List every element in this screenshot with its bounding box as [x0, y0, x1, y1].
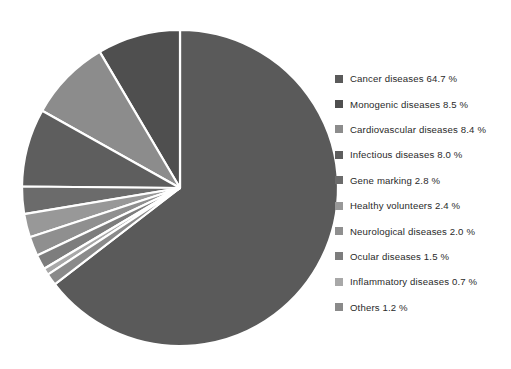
- legend-color-swatch-icon: [335, 278, 343, 286]
- legend-item[interactable]: Cancer diseases 64.7 %: [335, 66, 511, 91]
- legend-item[interactable]: Healthy volunteers 2.4 %: [335, 193, 511, 218]
- legend-item-label: Neurological diseases 2.0 %: [350, 226, 475, 237]
- legend-color-swatch-icon: [335, 303, 343, 311]
- legend-item[interactable]: Infectious diseases 8.0 %: [335, 142, 511, 167]
- legend-color-swatch-icon: [335, 151, 343, 159]
- legend-color-swatch-icon: [335, 100, 343, 108]
- pie-chart-figure: Cancer diseases 64.7 %Monogenic diseases…: [0, 0, 511, 369]
- legend-color-swatch-icon: [335, 176, 343, 184]
- legend-item-label: Cardiovascular diseases 8.4 %: [350, 124, 486, 135]
- chart-legend: Cancer diseases 64.7 %Monogenic diseases…: [335, 66, 511, 320]
- legend-item-label: Inflammatory diseases 0.7 %: [350, 276, 477, 287]
- legend-item-label: Cancer diseases 64.7 %: [350, 73, 457, 84]
- legend-item[interactable]: Inflammatory diseases 0.7 %: [335, 269, 511, 294]
- legend-item-label: Infectious diseases 8.0 %: [350, 149, 463, 160]
- legend-item[interactable]: Neurological diseases 2.0 %: [335, 218, 511, 243]
- legend-color-swatch-icon: [335, 227, 343, 235]
- legend-item[interactable]: Gene marking 2.8 %: [335, 168, 511, 193]
- pie-slices-group: Cancer diseases 64.7 %Monogenic diseases…: [22, 30, 338, 346]
- legend-color-swatch-icon: [335, 125, 343, 133]
- legend-item[interactable]: Monogenic diseases 8.5 %: [335, 91, 511, 116]
- legend-item[interactable]: Others 1.2 %: [335, 295, 511, 320]
- legend-color-swatch-icon: [335, 252, 343, 260]
- pie-chart-graphic: Cancer diseases 64.7 %Monogenic diseases…: [0, 0, 360, 369]
- legend-color-swatch-icon: [335, 75, 343, 83]
- legend-color-swatch-icon: [335, 202, 343, 210]
- legend-item-label: Others 1.2 %: [350, 302, 408, 313]
- legend-item-label: Monogenic diseases 8.5 %: [350, 99, 468, 110]
- legend-item[interactable]: Cardiovascular diseases 8.4 %: [335, 117, 511, 142]
- legend-item[interactable]: Ocular diseases 1.5 %: [335, 244, 511, 269]
- legend-item-label: Ocular diseases 1.5 %: [350, 251, 449, 262]
- legend-item-label: Gene marking 2.8 %: [350, 175, 440, 186]
- legend-item-label: Healthy volunteers 2.4 %: [350, 200, 460, 211]
